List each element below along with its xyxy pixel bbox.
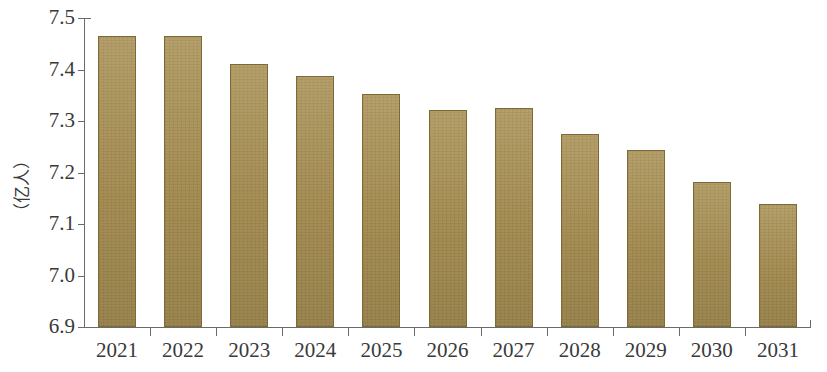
x-axis-tick — [547, 328, 548, 336]
x-axis-tick-label: 2021 — [84, 338, 150, 362]
bar — [164, 36, 202, 327]
x-axis-tick — [216, 328, 217, 336]
y-axis-tick-label: 7.0 — [23, 265, 75, 286]
bar — [561, 134, 599, 327]
x-axis-tick-label: 2028 — [547, 338, 613, 362]
bar — [627, 150, 665, 327]
y-axis-tick-label: 7.4 — [23, 59, 75, 80]
bar — [495, 108, 533, 327]
plot-area — [84, 18, 811, 327]
bar — [230, 64, 268, 327]
y-axis-tick — [78, 327, 85, 328]
x-axis-tick — [481, 328, 482, 336]
y-axis-tick-label: 7.1 — [23, 213, 75, 234]
x-axis-tick-label: 2025 — [348, 338, 414, 362]
x-axis-tick-label: 2030 — [679, 338, 745, 362]
bar-chart: （亿人） 7.57.47.37.27.17.06.9 2021202220232… — [0, 0, 827, 372]
x-axis-tick-label: 2026 — [414, 338, 480, 362]
x-axis-tick-label: 2022 — [150, 338, 216, 362]
y-axis-tick-label: 7.3 — [23, 110, 75, 131]
x-axis-tick-label: 2027 — [481, 338, 547, 362]
bar — [429, 110, 467, 327]
x-axis-tick-label: 2031 — [745, 338, 811, 362]
y-axis-tick-label: 6.9 — [23, 316, 75, 337]
x-axis-tick — [679, 328, 680, 336]
x-axis-tick — [348, 328, 349, 336]
x-axis-tick — [150, 328, 151, 336]
x-axis-line — [84, 327, 811, 328]
x-axis-tick-label: 2023 — [216, 338, 282, 362]
x-axis-tick — [282, 328, 283, 336]
y-axis-tick-label: 7.2 — [23, 162, 75, 183]
x-axis-tick-label: 2029 — [613, 338, 679, 362]
bar — [98, 36, 136, 327]
bar — [759, 204, 797, 327]
x-axis-tick — [414, 328, 415, 336]
bar — [362, 94, 400, 327]
bar — [296, 76, 334, 327]
x-axis-tick — [745, 328, 746, 336]
bar — [693, 182, 731, 327]
x-axis-tick-label: 2024 — [282, 338, 348, 362]
y-axis-tick-label: 7.5 — [23, 7, 75, 28]
x-axis-tick — [613, 328, 614, 336]
